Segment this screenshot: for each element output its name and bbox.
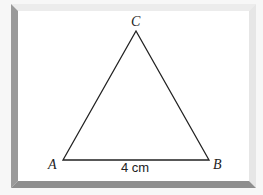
- triangle-abc: [63, 31, 209, 160]
- side-ab-length-label: 4 cm: [121, 160, 149, 175]
- vertex-label-a: A: [47, 157, 57, 172]
- vertex-label-c: C: [131, 14, 141, 29]
- vertex-label-b: B: [213, 157, 222, 172]
- triangle-diagram: C A B 4 cm: [0, 0, 263, 195]
